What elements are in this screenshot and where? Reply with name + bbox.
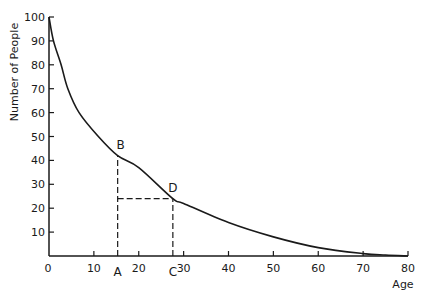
- y-tick-label: 100: [24, 11, 45, 24]
- point-label-d: D: [168, 181, 177, 195]
- y-tick-label: 40: [31, 154, 45, 167]
- x-tick-label: 10: [87, 262, 101, 275]
- x-axis-title: Age: [392, 278, 414, 291]
- y-tick-label: 10: [31, 226, 45, 239]
- x-tick-label: 30: [177, 262, 191, 275]
- y-tick-label: 20: [31, 202, 45, 215]
- axes: [49, 17, 408, 256]
- x-tick-label: 50: [266, 262, 280, 275]
- point-label-b: B: [117, 138, 125, 152]
- x-tick-label: 70: [356, 262, 370, 275]
- x-tick-label: 60: [311, 262, 325, 275]
- point-label-a: A: [114, 265, 123, 279]
- y-tick-label: 90: [31, 35, 45, 48]
- point-label-c: C: [169, 265, 177, 279]
- x-tick-label: 80: [401, 262, 415, 275]
- y-tick-label: 70: [31, 83, 45, 96]
- survival-curve: [49, 17, 408, 256]
- y-tick-label: 50: [31, 131, 45, 144]
- x-tick-label: 20: [132, 262, 146, 275]
- x-tick-label: 0: [45, 262, 52, 275]
- x-tick-label: 40: [222, 262, 236, 275]
- y-tick-label: 60: [31, 107, 45, 120]
- survival-chart: 01020304050607080102030405060708090100 A…: [0, 0, 424, 301]
- dashed-guides: [118, 156, 173, 256]
- y-tick-label: 80: [31, 59, 45, 72]
- y-tick-label: 30: [31, 178, 45, 191]
- axis-ticks: 01020304050607080102030405060708090100: [24, 11, 415, 275]
- y-axis-title: Number of People: [8, 23, 21, 122]
